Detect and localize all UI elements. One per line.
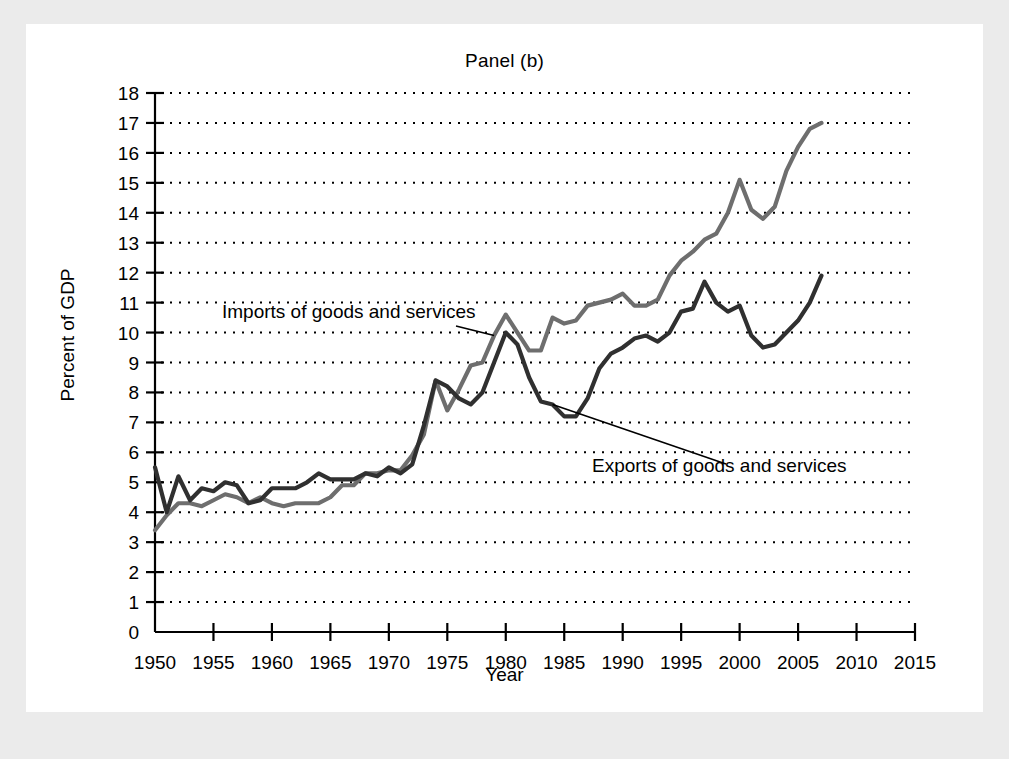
x-tick-label: 1965: [309, 652, 351, 673]
x-tick-label: 1950: [134, 652, 176, 673]
line-chart: 0123456789101112131415161718 19501955196…: [26, 24, 983, 712]
annotation-label: Exports of goods and services: [592, 455, 847, 476]
y-tick-label: 12: [118, 263, 139, 284]
x-tick-label: 2000: [718, 652, 760, 673]
y-tick-label: 0: [128, 622, 139, 643]
y-tick-label: 10: [118, 323, 139, 344]
x-tick-label: 1960: [251, 652, 293, 673]
y-tick-label: 9: [128, 353, 139, 374]
y-tick-label: 15: [118, 173, 139, 194]
annotation-leader-line: [456, 326, 494, 336]
x-axis-ticks: 1950195519601965197019751980198519901995…: [134, 623, 936, 673]
figure-page: Panel (b) Percent of GDP Year 0123456789…: [0, 0, 1009, 759]
y-tick-label: 3: [128, 532, 139, 553]
y-tick-label: 18: [118, 83, 139, 104]
x-tick-label: 2010: [835, 652, 877, 673]
figure-canvas: Panel (b) Percent of GDP Year 0123456789…: [26, 24, 983, 712]
y-tick-label: 2: [128, 562, 139, 583]
y-tick-label: 6: [128, 442, 139, 463]
y-tick-label: 5: [128, 472, 139, 493]
x-tick-label: 1970: [368, 652, 410, 673]
y-tick-label: 7: [128, 412, 139, 433]
y-axis-ticks: 0123456789101112131415161718: [118, 83, 164, 643]
x-tick-label: 1995: [660, 652, 702, 673]
x-tick-label: 2015: [894, 652, 936, 673]
y-tick-label: 8: [128, 382, 139, 403]
x-tick-label: 1955: [192, 652, 234, 673]
gridlines: [161, 93, 915, 602]
y-tick-label: 17: [118, 113, 139, 134]
annotation-label: Imports of goods and services: [222, 301, 475, 322]
y-tick-label: 1: [128, 592, 139, 613]
x-tick-label: 1980: [485, 652, 527, 673]
x-tick-label: 1985: [543, 652, 585, 673]
x-tick-label: 1990: [602, 652, 644, 673]
x-tick-label: 1975: [426, 652, 468, 673]
y-tick-label: 11: [119, 293, 139, 314]
y-tick-label: 14: [118, 203, 140, 224]
y-tick-label: 16: [118, 143, 139, 164]
x-tick-label: 2005: [777, 652, 819, 673]
y-tick-label: 4: [128, 502, 139, 523]
y-tick-label: 13: [118, 233, 139, 254]
